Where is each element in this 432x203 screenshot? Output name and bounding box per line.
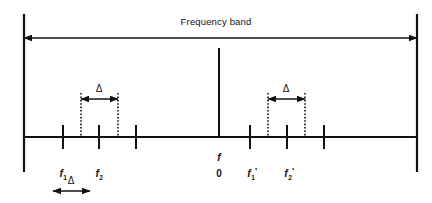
delta-right-upper-label: Δ [283,84,290,94]
label-f1-subscript: 1 [63,174,67,181]
delta-left-upper-label: Δ [96,84,103,94]
frequency-band-diagram: Frequency band ΔΔΔf0f1f2f1'f2' [0,0,432,203]
label-f1-prime-base: f [247,167,251,179]
label-f1: f1 [59,168,66,179]
label-f1-base: f [59,167,63,179]
label-f1-prime-prime: ' [255,166,257,176]
label-f2: f2 [95,168,102,179]
diagram-title: Frequency band [181,17,252,27]
label-f2-base: f [95,167,99,179]
label-f2-prime-prime: ' [292,166,294,176]
label-f2-subscript: 2 [99,174,103,181]
delta-bottom-label: Δ [68,176,75,186]
center-frequency-label-f: f [217,152,221,163]
label-f2-prime: f2' [284,168,293,179]
label-f2-prime-base: f [284,167,288,179]
label-f2-prime-subscript: 2 [288,174,292,181]
delta-arrows [53,99,305,191]
center-frequency-label-zero: 0 [216,169,222,179]
label-f1-prime-subscript: 1 [251,174,255,181]
label-f1-prime: f1' [247,168,256,179]
